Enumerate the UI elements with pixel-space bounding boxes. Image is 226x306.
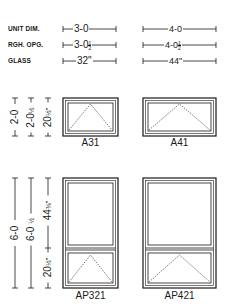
fraction: 12 [88, 41, 91, 50]
pa-upper-glass-frac: ⅜" [45, 201, 52, 209]
awning-rough-height: 2-0½ [26, 103, 37, 133]
pa-lower-glass-frac: ½" [45, 258, 52, 266]
unit-dim-col1: 3-0 [73, 24, 89, 34]
window-a31-drawing [63, 98, 118, 136]
frac-den: 2 [178, 45, 181, 50]
caption-ap321: AP321 [63, 290, 118, 301]
window-ap321-drawing [63, 178, 118, 288]
rough-opening-col1: 3-012 [73, 40, 92, 50]
window-ap421-drawing [143, 178, 216, 288]
pa-upper-glass-whole: 44 [42, 209, 53, 220]
awning-rough-whole: 2-0 [25, 113, 36, 127]
frac-den: 2 [88, 45, 91, 50]
awning-glass-whole: 20 [42, 116, 53, 127]
caption-ap421: AP421 [143, 290, 216, 301]
caption-a41: A41 [143, 137, 216, 148]
pa-lower-glass-whole: 20 [42, 266, 53, 277]
awning-unit-height: 2-0 [10, 104, 20, 130]
row-label-glass: GLASS [8, 57, 31, 64]
caption-a31: A31 [63, 137, 118, 148]
rough-opening-col2-whole: 4-0 [165, 40, 178, 50]
unit-dim-col2: 4-0 [168, 24, 183, 34]
pa-rough-height: 6-0 ½ [26, 214, 37, 246]
fraction: 12 [178, 41, 181, 50]
awning-rough-frac: ½ [28, 107, 35, 113]
pa-upper-glass-height: 44⅜" [43, 196, 54, 226]
glass-col2: 44" [168, 56, 183, 66]
rough-opening-col2: 4-012 [164, 40, 182, 50]
window-a41-drawing [143, 98, 216, 136]
pa-rough-frac: ½ [28, 218, 35, 224]
row-label-unit-dim: UNIT DIM. [8, 25, 40, 32]
pa-rough-whole: 6-0 [25, 227, 36, 241]
rough-opening-col1-whole: 3-0 [74, 39, 88, 50]
pa-lower-glass-height: 20½" [43, 253, 54, 283]
pa-unit-height: 6-0 [10, 220, 20, 246]
row-label-rough-opening: RGH. OPG. [8, 41, 43, 48]
awning-glass-height: 20½" [43, 103, 54, 133]
glass-col1: 32" [76, 56, 93, 66]
awning-glass-frac: ½" [45, 108, 52, 116]
